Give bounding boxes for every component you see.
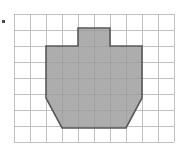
- grid-polygon-figure: [0, 0, 181, 149]
- grid-lines-overlay: [14, 14, 174, 142]
- figure-canvas: [0, 0, 181, 149]
